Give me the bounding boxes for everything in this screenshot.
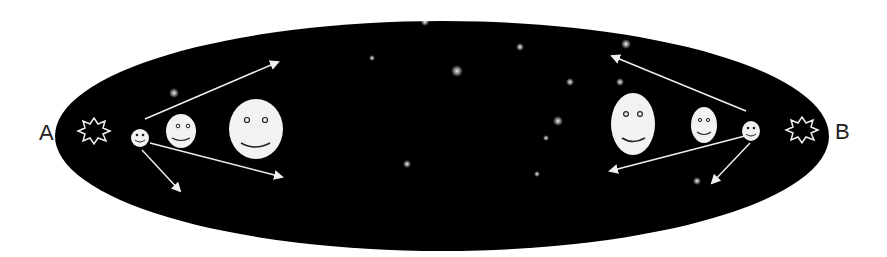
- point-label-b: B: [835, 119, 850, 145]
- right-smiley-large-icon: [611, 93, 655, 155]
- point-label-a: A: [39, 120, 54, 146]
- left-smiley-medium-icon: [166, 114, 196, 148]
- left-smiley-large-icon: [229, 99, 283, 159]
- left-explosion-icon: [78, 118, 110, 144]
- diagram-canvas: [0, 0, 887, 257]
- right-smiley-small-icon: [742, 121, 760, 141]
- right-explosion-icon: [786, 117, 818, 143]
- left-smiley-small-icon: [131, 129, 149, 147]
- right-smiley-medium-icon: [691, 107, 717, 143]
